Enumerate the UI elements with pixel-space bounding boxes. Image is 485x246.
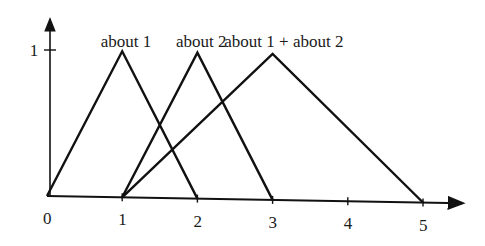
- series-group: [47, 51, 423, 202]
- series-line-1: [47, 51, 197, 198]
- y-tick-label: 1: [30, 41, 39, 60]
- x-tick-label: 2: [193, 212, 202, 231]
- fuzzy-number-chart: 0123451 about 1about 2about 1 + about 2: [0, 0, 485, 246]
- x-axis: [47, 196, 462, 203]
- x-tick-label: 1: [118, 210, 127, 229]
- series-label-1: about 1: [101, 32, 152, 51]
- x-tick-label: 0: [43, 209, 52, 228]
- series-labels: about 1about 2about 1 + about 2: [101, 32, 344, 51]
- ticks: 0123451: [30, 41, 428, 235]
- x-tick-label: 5: [419, 216, 428, 235]
- series-label-3: about 1 + about 2: [224, 32, 343, 51]
- x-tick-label: 3: [269, 213, 278, 232]
- x-tick-label: 4: [344, 214, 353, 233]
- series-line-3: [122, 54, 423, 203]
- series-label-2: about 2: [176, 32, 227, 51]
